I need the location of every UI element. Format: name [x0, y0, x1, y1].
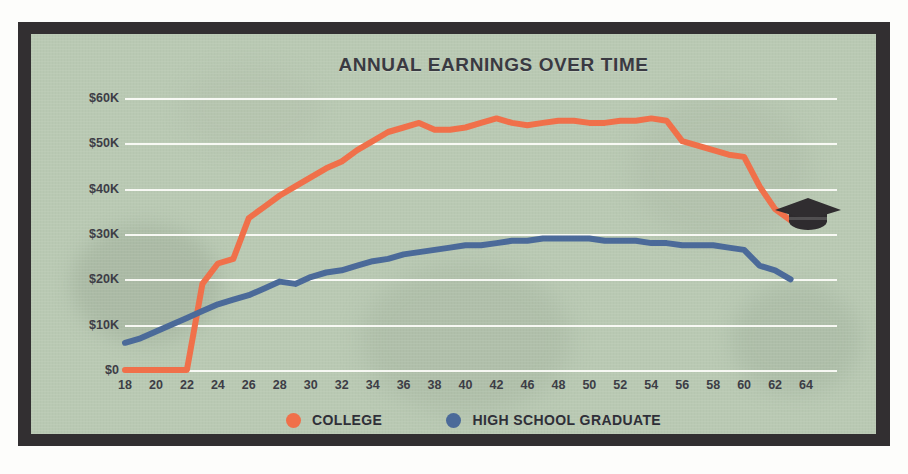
chart-canvas: ANNUAL EARNINGS OVER TIME $0$10K$20K$30K… [31, 34, 876, 434]
chart-frame: ANNUAL EARNINGS OVER TIME $0$10K$20K$30K… [18, 22, 890, 446]
legend-label: COLLEGE [312, 412, 382, 428]
x-axis-tick-label: 48 [551, 378, 565, 392]
chart-title: ANNUAL EARNINGS OVER TIME [31, 54, 876, 76]
x-axis-tick-label: 36 [397, 378, 411, 392]
legend-item[interactable]: HIGH SCHOOL GRADUATE [446, 412, 661, 428]
x-axis-tick-label: 26 [242, 378, 256, 392]
graduation-cap-icon [773, 190, 843, 234]
x-axis-tick-label: 34 [366, 378, 380, 392]
y-axis-tick-label: $60K [89, 91, 119, 105]
chart-title-text: ANNUAL EARNINGS OVER TIME [258, 54, 648, 75]
y-axis-tick-label: $50K [89, 136, 119, 150]
x-axis-tick-label: 38 [428, 378, 442, 392]
x-axis-tick-label: 22 [180, 378, 194, 392]
y-axis-tick-label: $20K [89, 272, 119, 286]
x-axis-tick-label: 62 [768, 378, 782, 392]
y-axis-tick-label: $40K [89, 182, 119, 196]
x-axis-tick-label: 46 [520, 378, 534, 392]
x-axis-tick-label: 42 [490, 378, 504, 392]
series-lines [125, 98, 837, 370]
gridline [125, 370, 837, 372]
x-axis-tick-label: 18 [118, 378, 132, 392]
x-axis-tick-label: 60 [737, 378, 751, 392]
x-axis-tick-label: 24 [211, 378, 225, 392]
x-axis-tick-label: 52 [613, 378, 627, 392]
x-axis-tick-label: 56 [675, 378, 689, 392]
x-axis-tick-label: 64 [799, 378, 813, 392]
x-axis-tick-label: 54 [644, 378, 658, 392]
x-axis-labels: 1820222426283032343638404246485052545658… [125, 378, 837, 400]
legend-marker-dot-icon [446, 413, 461, 428]
y-axis-labels: $0$10K$20K$30K$40K$50K$60K [55, 98, 119, 370]
legend-item[interactable]: COLLEGE [286, 412, 382, 428]
x-axis-tick-label: 30 [304, 378, 318, 392]
y-axis-tick-label: $10K [89, 318, 119, 332]
x-axis-tick-label: 40 [459, 378, 473, 392]
x-axis-tick-label: 58 [706, 378, 720, 392]
series-line-high-school-graduate [125, 239, 791, 343]
legend-label: HIGH SCHOOL GRADUATE [472, 412, 661, 428]
x-axis-tick-label: 32 [335, 378, 349, 392]
x-axis-tick-label: 28 [273, 378, 287, 392]
legend-marker-dot-icon [286, 413, 301, 428]
y-axis-tick-label: $30K [89, 227, 119, 241]
x-axis-tick-label: 50 [582, 378, 596, 392]
chart-legend: COLLEGEHIGH SCHOOL GRADUATE [31, 412, 876, 428]
y-axis-tick-label: $0 [105, 363, 119, 377]
x-axis-tick-label: 20 [149, 378, 163, 392]
plot-area [125, 98, 837, 370]
chart-poster: ANNUAL EARNINGS OVER TIME $0$10K$20K$30K… [0, 0, 908, 474]
